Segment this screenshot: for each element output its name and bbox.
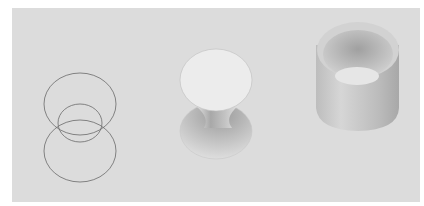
top-cap (180, 49, 252, 111)
bottom-circle (44, 120, 116, 182)
cylinder-tube (316, 22, 399, 131)
tube-inner-floor (335, 67, 379, 85)
hyperboloid-surface (180, 49, 252, 159)
figure-canvas (0, 0, 424, 206)
wireframe-circles (44, 73, 116, 182)
